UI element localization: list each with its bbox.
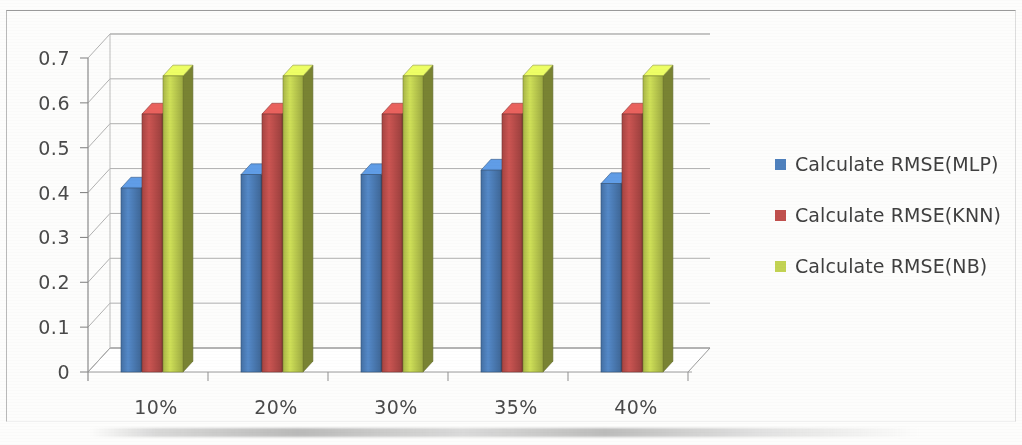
legend-swatch-icon-2 xyxy=(775,210,786,221)
x-axis-label-5: 40% xyxy=(614,396,658,418)
legend-swatch-icon-3 xyxy=(775,261,786,272)
y-axis-label-5: 0.4 xyxy=(14,182,70,204)
y-axis-label-3: 0.2 xyxy=(14,271,70,293)
bar-20pct-series3 xyxy=(283,65,313,372)
chart-legend: Calculate RMSE(MLP)Calculate RMSE(KNN)Ca… xyxy=(775,155,1015,308)
legend-label-2: Calculate RMSE(KNN) xyxy=(795,204,1001,226)
x-axis-label-4: 35% xyxy=(494,396,538,418)
bar-30pct-series3 xyxy=(403,65,433,372)
x-axis-label-2: 20% xyxy=(254,396,298,418)
bar-35pct-series3 xyxy=(523,65,553,372)
legend-item-2[interactable]: Calculate RMSE(KNN) xyxy=(775,206,1015,224)
x-axis-label-1: 10% xyxy=(134,396,178,418)
legend-item-3[interactable]: Calculate RMSE(NB) xyxy=(775,257,1015,275)
legend-item-1[interactable]: Calculate RMSE(MLP) xyxy=(775,155,1015,173)
legend-swatch-icon-1 xyxy=(775,159,786,170)
legend-label-3: Calculate RMSE(NB) xyxy=(795,255,987,277)
legend-label-1: Calculate RMSE(MLP) xyxy=(795,153,999,175)
bar-chart-3d: 00.10.20.30.40.50.60.7 10%20%30%35%40% C… xyxy=(0,0,1022,445)
y-axis-label-4: 0.3 xyxy=(14,226,70,248)
x-axis-label-3: 30% xyxy=(374,396,418,418)
y-axis-label-8: 0.7 xyxy=(14,47,70,69)
y-axis-label-2: 0.1 xyxy=(14,316,70,338)
bar-40pct-series3 xyxy=(643,65,673,372)
y-axis-label-6: 0.5 xyxy=(14,137,70,159)
y-axis-label-7: 0.6 xyxy=(14,92,70,114)
bar-10pct-series3 xyxy=(163,65,193,372)
y-axis-label-1: 0 xyxy=(14,361,70,383)
y-axis-tick-labels: 00.10.20.30.40.50.60.7 xyxy=(12,0,70,445)
